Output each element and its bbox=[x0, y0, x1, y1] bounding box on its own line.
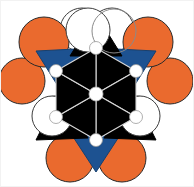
hexagon-vertex-node-bottom bbox=[90, 134, 103, 147]
hexagon-vertex-node-upper-right bbox=[130, 65, 143, 78]
center-node bbox=[89, 87, 103, 101]
hexagon-vertex-node-lower-right bbox=[130, 111, 143, 124]
structure-figure bbox=[0, 0, 194, 187]
hexagon-vertex-node-lower-left bbox=[50, 111, 63, 124]
hexagon-vertex-node-top bbox=[90, 42, 103, 55]
hexagon-vertex-node-upper-left bbox=[50, 65, 63, 78]
hollow-sphere-front-left bbox=[66, 8, 110, 52]
structure-diagram-canvas bbox=[0, 0, 194, 187]
